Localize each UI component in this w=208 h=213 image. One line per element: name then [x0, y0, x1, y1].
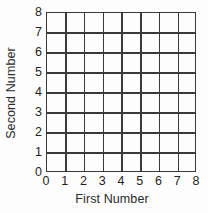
plot-grid [46, 12, 196, 172]
y-axis-title: Second Number [0, 0, 22, 186]
grid-line-horizontal [47, 132, 195, 134]
grid-line-horizontal [47, 92, 195, 94]
grid-line-horizontal [47, 152, 195, 154]
grid-line-horizontal [47, 72, 195, 74]
grid-line-horizontal [47, 52, 195, 54]
grid-line-horizontal [47, 32, 195, 34]
y-axis-title-label: Second Number [4, 47, 18, 139]
y-axis-tick-label: 2 [24, 126, 42, 139]
x-axis-title: First Number [24, 192, 200, 206]
x-axis-tick-label: 1 [56, 174, 74, 188]
x-axis-tick-label: 4 [112, 174, 130, 188]
x-axis-tick-label: 5 [131, 174, 149, 188]
y-axis-tick-label: 4 [24, 86, 42, 99]
x-axis-tick-labels: 012345678 [0, 174, 208, 190]
y-axis-tick-label: 5 [24, 66, 42, 79]
y-axis-tick-label: 3 [24, 106, 42, 119]
y-axis-tick-label: 8 [24, 6, 42, 19]
grid-line-horizontal [47, 112, 195, 114]
y-axis-tick-label: 7 [24, 26, 42, 39]
x-axis-tick-label: 3 [93, 174, 111, 188]
sample-space-grid-figure: Second Number 876543210 012345678 First … [0, 0, 208, 213]
x-axis-tick-label: 6 [150, 174, 168, 188]
x-axis-tick-label: 8 [187, 174, 205, 188]
x-axis-tick-label: 2 [75, 174, 93, 188]
y-axis-tick-label: 6 [24, 46, 42, 59]
y-axis-tick-label: 1 [24, 146, 42, 159]
x-axis-tick-label: 7 [168, 174, 186, 188]
x-axis-tick-label: 0 [37, 174, 55, 188]
